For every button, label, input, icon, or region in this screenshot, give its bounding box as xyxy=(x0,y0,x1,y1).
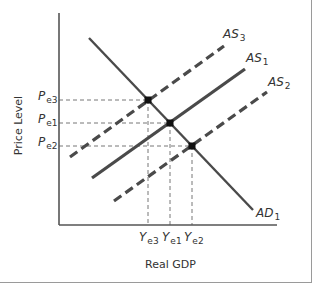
equilibrium-e2-point xyxy=(189,143,196,150)
equilibrium-e3-point xyxy=(145,97,152,104)
x-axis-title: Real GDP xyxy=(145,259,196,270)
ye2-label: Ye2 xyxy=(184,231,204,243)
as2-label: AS2 xyxy=(268,76,291,88)
ye3-label: Ye3 xyxy=(139,231,159,243)
pe1-label: Pe1 xyxy=(38,113,58,125)
ye1-label: Ye1 xyxy=(162,231,182,243)
ad1-label: AD1 xyxy=(256,207,280,219)
equilibrium-e1-point xyxy=(167,120,174,127)
as3-label: AS3 xyxy=(223,28,246,40)
y-axis-title: Price Level xyxy=(13,96,24,156)
pe2-label: Pe2 xyxy=(38,136,58,148)
as1-label: AS1 xyxy=(246,52,269,64)
pe3-label: Pe3 xyxy=(38,90,58,102)
